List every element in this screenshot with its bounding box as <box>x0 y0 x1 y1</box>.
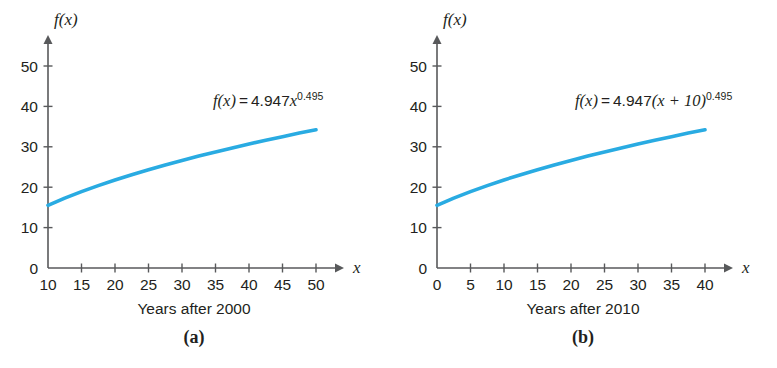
panel-a-equation-lhs: f(x) <box>213 91 236 110</box>
panel-a-equation: f(x)=4.947x0.495 <box>213 91 323 111</box>
y-tick-label: 30 <box>21 138 39 155</box>
x-tick-label: 20 <box>106 276 124 293</box>
y-tick-label: 0 <box>29 260 38 277</box>
x-tick-label: 30 <box>629 276 647 293</box>
panel-b-equation-coefficient: 4.947 <box>613 92 652 109</box>
panel-a-equation-exponent: 0.495 <box>297 90 323 102</box>
panel-b-equation-variable: (x + 10) <box>652 91 706 110</box>
x-tick-label: 10 <box>495 276 513 293</box>
x-axis-name: x <box>352 258 361 277</box>
x-tick-label: 20 <box>562 276 580 293</box>
panel-b-x-title: Years after 2010 <box>389 300 777 318</box>
panel-a: 01020304050101520253035404550f(x)x f(x)=… <box>0 0 388 368</box>
panel-a-x-title: Years after 2000 <box>0 300 388 318</box>
panel-a-letter: (a) <box>0 327 388 348</box>
panel-b: 010203040500510152025303540f(x)x f(x)=4.… <box>389 0 777 368</box>
x-tick-label: 15 <box>529 276 546 293</box>
x-tick-label: 35 <box>207 276 224 293</box>
y-tick-label: 50 <box>410 58 428 75</box>
y-tick-label: 30 <box>410 138 428 155</box>
y-tick-label: 40 <box>21 98 39 115</box>
x-tick-label: 15 <box>73 276 90 293</box>
y-tick-label: 0 <box>418 260 427 277</box>
y-axis-name: f(x) <box>443 10 467 29</box>
panel-b-letter: (b) <box>389 327 777 348</box>
x-tick-label: 40 <box>240 276 258 293</box>
x-tick-label: 25 <box>596 276 613 293</box>
y-tick-label: 20 <box>410 179 428 196</box>
x-axis-name: x <box>741 258 750 277</box>
x-tick-label: 5 <box>466 276 475 293</box>
panel-b-equation-operator: = <box>598 92 613 109</box>
y-tick-label: 50 <box>21 58 39 75</box>
x-tick-label: 25 <box>140 276 157 293</box>
y-tick-label: 10 <box>21 219 39 236</box>
x-tick-label: 35 <box>663 276 680 293</box>
panel-b-equation-lhs: f(x) <box>575 91 598 110</box>
data-curve <box>437 130 705 206</box>
y-tick-label: 40 <box>410 98 428 115</box>
x-tick-label: 40 <box>696 276 714 293</box>
panel-a-equation-coefficient: 4.947 <box>251 92 290 109</box>
x-tick-label: 45 <box>274 276 291 293</box>
figure-container: 01020304050101520253035404550f(x)x f(x)=… <box>0 0 777 368</box>
panel-a-equation-operator: = <box>236 92 251 109</box>
x-tick-label: 50 <box>307 276 325 293</box>
y-tick-label: 10 <box>410 219 428 236</box>
x-tick-label: 30 <box>173 276 191 293</box>
x-tick-label: 10 <box>39 276 57 293</box>
panel-b-equation: f(x)=4.947(x + 10)0.495 <box>575 91 732 111</box>
panel-b-equation-exponent: 0.495 <box>706 90 732 102</box>
y-axis-name: f(x) <box>54 10 78 29</box>
data-curve <box>48 130 316 206</box>
y-tick-label: 20 <box>21 179 39 196</box>
panel-a-equation-variable: x <box>290 91 297 110</box>
x-tick-label: 0 <box>433 276 442 293</box>
